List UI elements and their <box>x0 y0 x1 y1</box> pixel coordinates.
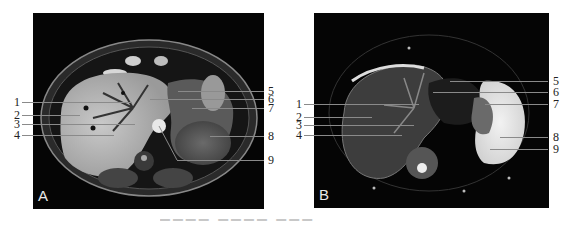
leader-line-b-9 <box>490 149 548 150</box>
label-b-4: 4 <box>294 129 304 141</box>
leader-line-b-6 <box>433 92 548 93</box>
panel-letter-a: A <box>38 187 48 204</box>
label-a-1: 1 <box>12 96 22 108</box>
label-b-9: 9 <box>551 143 561 155</box>
leader-line-a-4 <box>22 135 114 136</box>
leader-line-b-2 <box>304 117 372 118</box>
figure-caption-cutoff: ▀▀▀▀ ▀▀▀▀ ▀▀▀ ▀▀▀▀ <box>160 219 360 225</box>
label-b-1: 1 <box>294 98 304 110</box>
leader-line-a-3 <box>22 124 135 125</box>
leader-line-b-4 <box>304 135 402 136</box>
label-a-8: 8 <box>266 130 276 142</box>
leader-line-a-7 <box>192 108 264 109</box>
label-a-7: 7 <box>266 102 276 114</box>
label-b-7: 7 <box>551 98 561 110</box>
leader-line-a-8 <box>210 136 264 137</box>
leader-line-a-1 <box>22 102 132 103</box>
leader-line-a-9 <box>177 160 264 161</box>
mri-panel-a: A <box>33 13 264 209</box>
leader-line-b-3 <box>304 125 414 126</box>
label-a-4: 4 <box>12 129 22 141</box>
leader-line-a-2 <box>22 115 80 116</box>
panel-letter-b: B <box>319 186 329 203</box>
leader-line-b-1 <box>304 104 419 105</box>
leader-line-b-8 <box>500 137 548 138</box>
mri-panel-b: B <box>314 13 549 208</box>
mri-image-a <box>33 13 264 209</box>
mri-image-b <box>314 13 549 208</box>
leader-line-b-7 <box>485 104 548 105</box>
label-a-9: 9 <box>266 154 276 166</box>
leader-line-b-5 <box>450 81 548 82</box>
leader-line-a-5 <box>178 91 264 92</box>
leader-line-a-6 <box>150 99 264 100</box>
